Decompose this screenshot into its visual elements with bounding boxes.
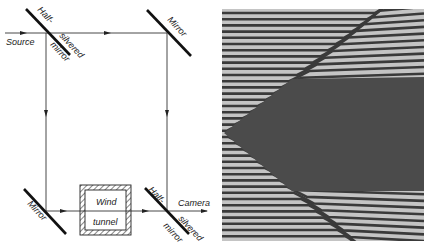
wind-tunnel-label-2: tunnel	[93, 217, 119, 227]
interferogram-photo	[222, 9, 424, 241]
interferometer-diagram: Wind tunnel Source Half- silvered mirror…	[0, 0, 216, 249]
half-silvered-bottom-label-1: Half-	[147, 185, 167, 206]
camera-label: Camera	[178, 198, 210, 208]
wind-tunnel-label-1: Wind	[96, 197, 117, 207]
arrow-icon	[201, 209, 208, 213]
wind-tunnel: Wind tunnel	[80, 185, 131, 235]
arrow-icon	[44, 110, 48, 117]
arrow-icon	[60, 209, 67, 213]
beam-paths	[5, 33, 207, 211]
arrow-icon	[142, 209, 149, 213]
source-label: Source	[6, 37, 35, 47]
mirror-top-right-label: Mirror	[166, 15, 190, 40]
arrow-icon	[104, 31, 111, 35]
arrow-icon	[20, 31, 27, 35]
arrow-icon	[165, 110, 169, 117]
